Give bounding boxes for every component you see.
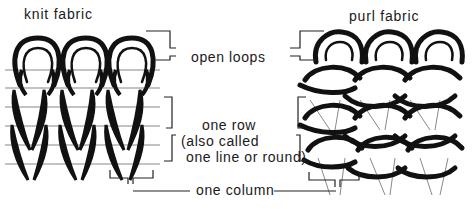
one-column-label: one column <box>196 182 274 198</box>
purl-fabric-title: purl fabric <box>349 8 419 24</box>
knit-purl-diagram: knit fabric purl fabric <box>0 0 473 209</box>
one-line-or-round-label: one line or round) <box>186 149 307 165</box>
purl-fabric-illustration <box>300 32 462 195</box>
knit-fabric-illustration <box>5 38 160 180</box>
open-loops-label: open loops <box>191 49 266 65</box>
knit-fabric-title: knit fabric <box>24 6 93 22</box>
one-row-label: one row <box>202 117 256 133</box>
also-called-label: (also called <box>181 133 259 149</box>
